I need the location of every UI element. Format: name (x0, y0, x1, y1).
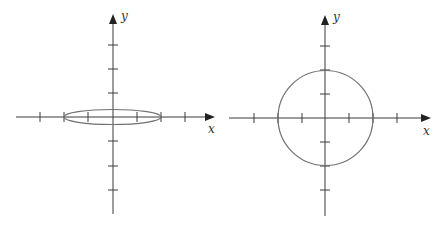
left-x-arrow-icon (205, 113, 215, 121)
left-x-label: x (208, 122, 215, 136)
figure: y x y x (0, 0, 438, 229)
right-y-label: y (332, 10, 340, 24)
left-y-label: y (120, 9, 128, 23)
left-y-arrow-icon (109, 14, 117, 24)
right-x-arrow-icon (421, 114, 431, 122)
right-y-arrow-icon (321, 15, 329, 25)
right-panel: y x (229, 10, 431, 216)
right-x-label: x (423, 124, 430, 138)
left-panel: y x (16, 9, 215, 214)
